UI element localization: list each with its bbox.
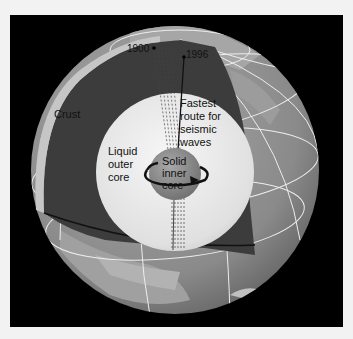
label-1900: 1900 [127,43,150,54]
label-1996: 1996 [186,49,209,60]
svg-text:Fastest: Fastest [180,97,216,109]
label-crust: Crust [54,108,80,120]
svg-text:core: core [108,171,129,183]
svg-text:outer: outer [108,158,133,170]
svg-text:Liquid: Liquid [108,145,137,157]
svg-text:Solid: Solid [162,155,186,167]
marker-1900 [152,46,156,50]
svg-text:route for: route for [180,110,221,122]
svg-text:inner: inner [162,167,187,179]
svg-text:seismic: seismic [180,123,217,135]
earth-cutaway-diagram: 1900 1996 Crust Fastest route for seismi… [0,0,353,339]
svg-text:waves: waves [179,136,212,148]
svg-text:core: core [162,179,183,191]
label-inner-core: Solid inner core [162,155,187,191]
